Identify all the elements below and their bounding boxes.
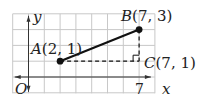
label-A: A(2, 1) xyxy=(29,40,82,58)
y-axis-arrow-icon xyxy=(27,16,31,22)
right-angle-mark xyxy=(133,55,139,61)
tick-label-x-7: 7 xyxy=(135,81,144,97)
y-axis-label: y xyxy=(32,8,42,26)
point-B xyxy=(136,26,143,33)
origin-label: O xyxy=(15,80,27,98)
labels: A(2, 1)B(7, 3)C(7, 1)yxO7 xyxy=(15,7,196,98)
x-axis-label: x xyxy=(162,80,171,98)
x-axis-arrow-icon xyxy=(145,75,151,79)
right-angle-icon xyxy=(133,55,139,61)
coordinate-diagram: A(2, 1)B(7, 3)C(7, 1)yxO7 xyxy=(0,0,198,101)
label-C: C(7, 1) xyxy=(144,54,196,72)
point-A xyxy=(57,58,64,65)
x-axis-arrow-left-icon xyxy=(15,75,21,79)
label-B: B(7, 3) xyxy=(120,7,172,25)
